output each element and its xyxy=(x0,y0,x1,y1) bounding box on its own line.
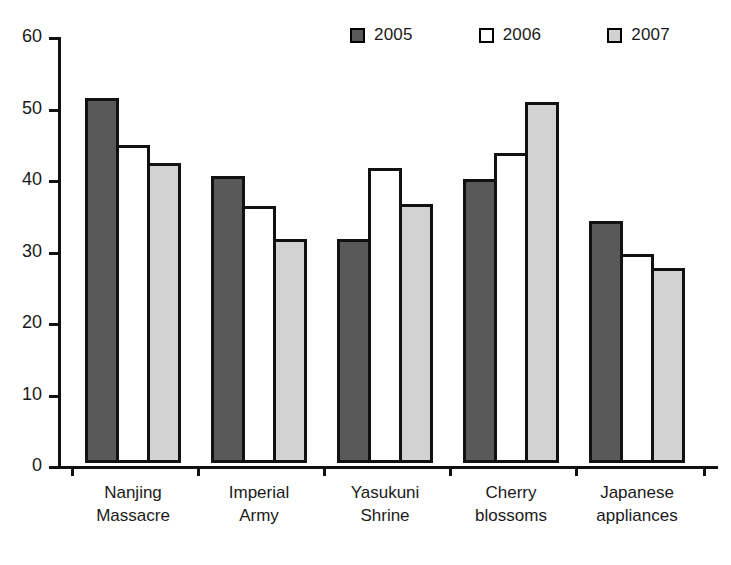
plot-area: 6050403020100 NanjingMassacreImperialArm… xyxy=(58,37,718,466)
bar xyxy=(211,176,245,463)
x-axis-tick xyxy=(197,466,200,476)
y-axis-tick-label: 30 xyxy=(22,241,42,261)
x-axis-category-label: ImperialArmy xyxy=(189,481,329,527)
bar xyxy=(85,98,119,463)
bar xyxy=(525,102,559,463)
bar xyxy=(494,153,528,463)
y-axis-tick: 0 xyxy=(49,466,59,469)
x-axis-category-label-line: Nanjing xyxy=(63,481,203,504)
x-axis-category-label-line: Massacre xyxy=(63,504,203,527)
x-axis-category-label: Japaneseappliances xyxy=(567,481,707,527)
y-axis-tick: 40 xyxy=(49,180,59,183)
y-axis-tick-label: 40 xyxy=(22,169,42,189)
y-axis-tick: 30 xyxy=(49,252,59,255)
bar-group xyxy=(211,34,313,463)
y-axis-tick: 10 xyxy=(49,395,59,398)
bar xyxy=(368,168,402,463)
x-axis-category-label: YasukuniShrine xyxy=(315,481,455,527)
y-axis-tick-label: 50 xyxy=(22,98,42,118)
x-axis-category-label: NanjingMassacre xyxy=(63,481,203,527)
x-axis-tick xyxy=(703,466,706,476)
x-axis-category-label-line: appliances xyxy=(567,504,707,527)
bar xyxy=(273,239,307,463)
bar xyxy=(651,268,685,463)
y-axis-tick-label: 0 xyxy=(32,455,42,475)
y-axis-tick: 60 xyxy=(49,37,59,40)
y-axis-tick-label: 20 xyxy=(22,312,42,332)
x-axis-tick xyxy=(323,466,326,476)
y-axis-tick-label: 60 xyxy=(22,26,42,46)
bar xyxy=(337,239,371,463)
bar xyxy=(589,221,623,463)
x-axis-tick xyxy=(575,466,578,476)
bar xyxy=(399,204,433,463)
bar xyxy=(463,179,497,463)
bar-group xyxy=(589,34,691,463)
y-axis-tick-label: 10 xyxy=(22,384,42,404)
x-axis-category-label-line: Japanese xyxy=(567,481,707,504)
x-axis-tick xyxy=(449,466,452,476)
y-axis-tick: 50 xyxy=(49,109,59,112)
x-axis-tick xyxy=(71,466,74,476)
bar xyxy=(147,163,181,463)
bar xyxy=(620,254,654,463)
bar xyxy=(116,145,150,463)
x-axis-category-label-line: Imperial xyxy=(189,481,329,504)
y-axis-tick: 20 xyxy=(49,323,59,326)
x-axis-line xyxy=(58,466,718,469)
bar-group xyxy=(463,34,565,463)
bar-group xyxy=(337,34,439,463)
bar xyxy=(242,206,276,463)
x-axis-category-label: Cherryblossoms xyxy=(441,481,581,527)
x-axis-category-label-line: blossoms xyxy=(441,504,581,527)
x-axis-category-label-line: Yasukuni xyxy=(315,481,455,504)
x-axis-category-label-line: Shrine xyxy=(315,504,455,527)
x-axis-category-label-line: Army xyxy=(189,504,329,527)
bar-chart: 2005 2006 2007 6050403020100 NanjingMass… xyxy=(0,0,731,565)
x-axis-category-label-line: Cherry xyxy=(441,481,581,504)
bar-group xyxy=(85,34,187,463)
